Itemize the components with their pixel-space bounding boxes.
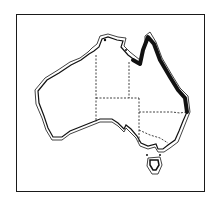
city-dot-darwin [104,39,106,41]
coastline-inner [38,37,187,149]
city-dot-gulf [125,49,127,51]
australia-map [0,0,216,203]
tasmania-inner [150,160,159,170]
city-dot-melbourne [146,154,148,156]
city-dot-east [159,154,161,156]
